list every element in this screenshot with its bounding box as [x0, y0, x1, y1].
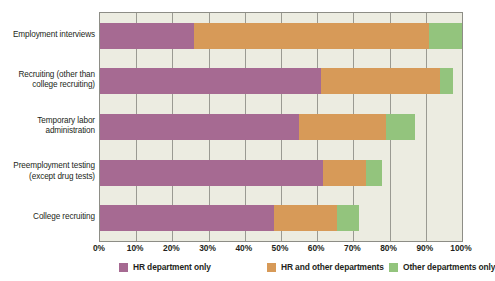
bar-segment: [337, 205, 359, 231]
value-axis: 0%10%20%30%40%50%60%70%80%90%100%: [99, 243, 461, 257]
bar-series-container: [100, 13, 462, 241]
legend-item[interactable]: HR department only: [119, 262, 211, 272]
bar-segment: [100, 23, 194, 49]
bar-segment: [274, 205, 337, 231]
bar-segment: [100, 68, 321, 94]
category-label-line: Employment interviews: [0, 30, 95, 41]
x-tick-label: 10%: [127, 243, 144, 253]
x-tick-label: 100%: [450, 243, 471, 253]
bar-row: [100, 205, 462, 231]
chart-legend: HR department onlyHR and other departmen…: [99, 262, 471, 276]
x-tick-label: 20%: [163, 243, 180, 253]
legend-swatch-icon: [119, 263, 128, 272]
bar-row: [100, 23, 462, 49]
category-label: Temporary laboradministration: [0, 116, 95, 137]
bar-segment: [386, 114, 415, 140]
category-label-line: College recruiting: [0, 212, 95, 223]
x-tick-label: 80%: [380, 243, 397, 253]
bar-segment: [299, 114, 386, 140]
x-tick-label: 0%: [93, 243, 105, 253]
category-label-line: administration: [0, 126, 95, 137]
category-label-line: Recruiting (other than: [0, 70, 95, 81]
x-tick-label: 60%: [308, 243, 325, 253]
category-label: Employment interviews: [0, 30, 95, 41]
category-label-line: (except drug tests): [0, 172, 95, 183]
bar-segment: [323, 160, 366, 186]
category-label-line: Preemployment testing: [0, 161, 95, 172]
legend-item[interactable]: Other departments only: [389, 262, 495, 272]
legend-label: HR and other departments: [281, 262, 384, 272]
x-tick-label: 90%: [416, 243, 433, 253]
legend-item[interactable]: HR and other departments: [267, 262, 384, 272]
category-label-line: Temporary labor: [0, 116, 95, 127]
category-label: Preemployment testing(except drug tests): [0, 161, 95, 182]
bar-segment: [100, 160, 323, 186]
bar-segment: [100, 205, 274, 231]
legend-swatch-icon: [267, 263, 276, 272]
bar-row: [100, 114, 462, 140]
bar-segment: [194, 23, 429, 49]
category-label: Recruiting (other thancollege recruiting…: [0, 70, 95, 91]
bar-segment: [429, 23, 462, 49]
bar-segment: [366, 160, 382, 186]
bar-row: [100, 68, 462, 94]
category-label: College recruiting: [0, 212, 95, 223]
x-tick-label: 70%: [344, 243, 361, 253]
category-axis: Employment interviewsRecruiting (other t…: [0, 12, 95, 240]
plot-area: [99, 12, 463, 242]
bar-segment: [100, 114, 299, 140]
legend-label: Other departments only: [403, 262, 495, 272]
x-tick-label: 40%: [235, 243, 252, 253]
bar-segment: [440, 68, 453, 94]
legend-label: HR department only: [133, 262, 211, 272]
bar-row: [100, 160, 462, 186]
bar-segment: [321, 68, 440, 94]
legend-swatch-icon: [389, 263, 398, 272]
x-tick-label: 30%: [199, 243, 216, 253]
category-label-line: college recruiting): [0, 80, 95, 91]
x-tick-label: 50%: [272, 243, 289, 253]
